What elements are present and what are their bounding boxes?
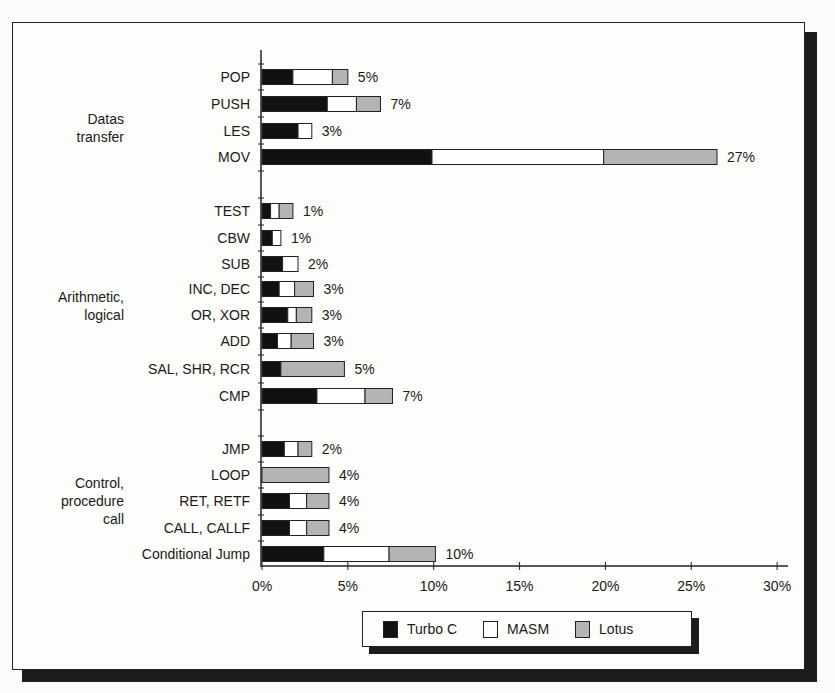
bar-segment-turbo-c [262, 204, 271, 219]
legend-label-lotus: Lotus [599, 621, 633, 637]
category-label: RET, RETF [179, 493, 250, 509]
group-label: Arithmetic, [58, 289, 124, 305]
bar-segment-lotus [356, 97, 380, 112]
stacked-bar-chart: 0%5%10%15%20%25%30%POP5%PUSH7%LES3%MOV27… [0, 0, 835, 693]
bar-segment-turbo-c [262, 494, 289, 509]
bar-segment-turbo-c [262, 124, 298, 139]
category-label: CMP [219, 388, 250, 404]
x-tick-label: 30% [763, 578, 791, 594]
total-percentage-label: 4% [339, 520, 359, 536]
category-label: CALL, CALLF [164, 520, 250, 536]
total-percentage-label: 3% [324, 333, 344, 349]
category-label: PUSH [211, 96, 250, 112]
category-label: Conditional Jump [142, 546, 250, 562]
x-tick-label: 5% [338, 578, 358, 594]
bar-segment-turbo-c [262, 334, 277, 349]
group-label: procedure [61, 493, 124, 509]
bar-segment-turbo-c [262, 257, 283, 272]
bar-segment-masm [298, 124, 312, 139]
bar-segment-masm [324, 547, 389, 562]
bar-segment-turbo-c [262, 521, 289, 536]
legend-label-masm: MASM [507, 621, 549, 637]
x-tick-label: 0% [252, 578, 272, 594]
bar-segment-lotus [307, 521, 329, 536]
group-label: Datas [87, 111, 124, 127]
total-percentage-label: 4% [339, 493, 359, 509]
bar-segment-lotus [604, 150, 717, 165]
total-percentage-label: 7% [402, 388, 422, 404]
total-percentage-label: 2% [322, 441, 342, 457]
bar-segment-turbo-c [262, 308, 288, 323]
bar-segment-lotus [291, 334, 313, 349]
bar-segment-lotus [279, 204, 293, 219]
bar-segment-masm [279, 282, 294, 297]
total-percentage-label: 3% [322, 123, 342, 139]
bar-segment-lotus [298, 442, 312, 457]
legend-label-turbo-c: Turbo C [407, 621, 457, 637]
total-percentage-label: 5% [354, 361, 374, 377]
bar-segment-turbo-c [262, 231, 272, 246]
category-label: LOOP [211, 467, 250, 483]
bar-segment-masm [271, 204, 280, 219]
bar-segment-masm [327, 97, 356, 112]
bar-segment-masm [283, 257, 298, 272]
bar-segment-lotus [295, 282, 314, 297]
total-percentage-label: 5% [358, 69, 378, 85]
x-tick-label: 15% [506, 578, 534, 594]
bar-segment-lotus [332, 70, 347, 85]
category-label: SAL, SHR, RCR [148, 361, 250, 377]
category-label: INC, DEC [189, 281, 250, 297]
x-tick-label: 20% [591, 578, 619, 594]
total-percentage-label: 1% [303, 203, 323, 219]
total-percentage-label: 3% [322, 307, 342, 323]
legend-item-lotus: Lotus [575, 621, 633, 638]
total-percentage-label: 2% [308, 256, 328, 272]
legend: Turbo C MASM Lotus [362, 611, 692, 647]
bar-segment-masm [289, 494, 306, 509]
bar-segment-turbo-c [262, 150, 432, 165]
bar-segment-lotus [389, 547, 435, 562]
swatch-turbo-c [383, 621, 398, 638]
category-label: LES [224, 123, 250, 139]
group-label: logical [84, 307, 124, 323]
legend-item-turbo-c: Turbo C [383, 621, 457, 638]
category-label: CBW [217, 230, 250, 246]
bar-segment-masm [288, 308, 297, 323]
bar-segment-turbo-c [262, 362, 281, 377]
bar-segment-masm [284, 442, 298, 457]
bar-segment-turbo-c [262, 442, 284, 457]
bar-segment-masm [432, 150, 604, 165]
bar-segment-turbo-c [262, 389, 317, 404]
bar-segment-masm [277, 334, 291, 349]
group-label: Control, [75, 475, 124, 491]
total-percentage-label: 7% [390, 96, 410, 112]
bar-segment-lotus [307, 494, 329, 509]
bar-segment-masm [293, 70, 332, 85]
bar-segment-turbo-c [262, 547, 324, 562]
bar-segment-masm [272, 231, 281, 246]
swatch-lotus [575, 621, 590, 638]
category-label: ADD [220, 333, 250, 349]
category-label: JMP [222, 441, 250, 457]
category-label: TEST [214, 203, 250, 219]
legend-item-masm: MASM [483, 621, 549, 638]
x-tick-label: 10% [420, 578, 448, 594]
total-percentage-label: 10% [445, 546, 473, 562]
bar-segment-lotus [365, 389, 392, 404]
category-label: MOV [218, 149, 251, 165]
bar-segment-masm [289, 521, 306, 536]
bar-segment-masm [317, 389, 365, 404]
total-percentage-label: 4% [339, 467, 359, 483]
bar-segment-turbo-c [262, 282, 279, 297]
total-percentage-label: 27% [727, 149, 755, 165]
bar-segment-turbo-c [262, 70, 293, 85]
bar-segment-lotus [296, 308, 311, 323]
bar-segment-lotus [281, 362, 345, 377]
total-percentage-label: 1% [291, 230, 311, 246]
total-percentage-label: 3% [324, 281, 344, 297]
x-tick-label: 25% [677, 578, 705, 594]
swatch-masm [483, 621, 498, 638]
category-label: OR, XOR [191, 307, 250, 323]
category-label: POP [220, 69, 250, 85]
category-label: SUB [221, 256, 250, 272]
